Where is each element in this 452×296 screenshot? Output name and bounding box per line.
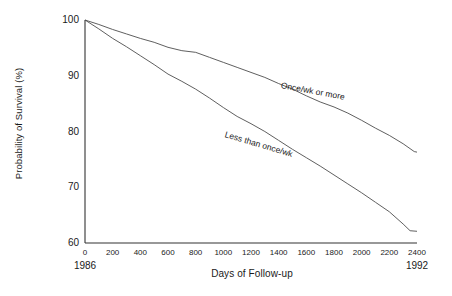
survival-curve: [85, 20, 417, 231]
x-axis-year-label: 1992: [387, 261, 447, 271]
y-axis-tick-label: 100: [49, 15, 79, 25]
y-axis-tick-label: 70: [49, 182, 79, 192]
x-axis-tick-label: 2400: [397, 249, 437, 257]
y-axis-tick-label: 90: [49, 71, 79, 81]
axis-lines: [85, 20, 417, 243]
survival-curve-figure: Probability of Survival (%) Days of Foll…: [0, 0, 452, 296]
y-axis-tick-label: 80: [49, 127, 79, 137]
x-axis-year-label: 1986: [55, 261, 115, 271]
y-axis-tick-label: 60: [49, 238, 79, 248]
y-axis-title: Probability of Survival (%): [13, 44, 24, 204]
survival-curve: [85, 20, 417, 152]
x-axis-title: Days of Follow-up: [86, 268, 418, 279]
series-lines: [85, 20, 417, 231]
